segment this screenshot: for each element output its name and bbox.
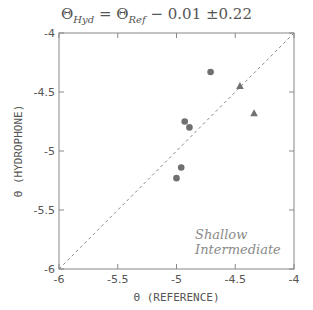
x-tick-label: -5 bbox=[171, 273, 182, 286]
x-tick-label: -4.5 bbox=[225, 273, 246, 286]
data-point-triangle bbox=[250, 109, 258, 116]
x-tick-label: -6 bbox=[54, 273, 65, 286]
y-tick-label: -6 bbox=[44, 263, 55, 276]
plot-area: -6-5.5-5-4.5-4-6-5.5-5-4.5-4Θ (REFERENCE… bbox=[0, 0, 313, 310]
data-point-circle bbox=[207, 69, 214, 76]
scatter-chart: ΘHyd = ΘRef − 0.01 ±0.22 -6-5.5-5-4.5-4-… bbox=[0, 0, 313, 310]
y-tick-label: -5 bbox=[44, 145, 55, 158]
legend-entry-intermediate: Intermediate bbox=[195, 242, 281, 257]
legend: Shallow Intermediate bbox=[195, 227, 281, 257]
data-point-circle bbox=[178, 164, 185, 171]
y-axis-label: Θ (HYDROPHONE) bbox=[12, 105, 25, 198]
x-axis-label: Θ (REFERENCE) bbox=[133, 291, 219, 304]
data-point-circle bbox=[181, 118, 188, 125]
y-tick-label: -5.5 bbox=[34, 204, 55, 217]
x-tick-label: -4 bbox=[289, 273, 300, 286]
data-point-circle bbox=[173, 175, 180, 182]
x-tick-label: -5.5 bbox=[107, 273, 128, 286]
data-point-triangle bbox=[236, 82, 244, 89]
legend-entry-shallow: Shallow bbox=[195, 227, 281, 242]
data-point-circle bbox=[186, 124, 193, 131]
y-tick-label: -4.5 bbox=[34, 86, 55, 99]
y-tick-label: -4 bbox=[44, 27, 55, 40]
